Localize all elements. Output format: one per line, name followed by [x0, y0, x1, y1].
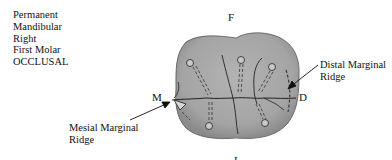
- distal-marginal-ridge-callout: Distal Marginal Ridge: [320, 59, 386, 83]
- cusp-distal: [269, 64, 276, 71]
- callout-text-line-2: Ridge: [320, 71, 386, 83]
- cusp-distofacial: [238, 57, 245, 64]
- callout-text-line-1: Mesial Marginal: [69, 122, 139, 134]
- label-distal: D: [299, 91, 307, 103]
- mesial-callout-line: [130, 104, 166, 120]
- mesial-marginal-ridge-callout: Mesial Marginal Ridge: [69, 122, 139, 146]
- tooth-crown: [176, 33, 299, 139]
- label-mesial: M: [152, 91, 162, 103]
- cusp-mesiolingual: [206, 123, 213, 130]
- label-lingual: L: [234, 154, 241, 160]
- callout-text-line-2: Ridge: [69, 134, 139, 146]
- callout-text-line-1: Distal Marginal: [320, 59, 386, 71]
- cusp-distolingual: [262, 120, 269, 127]
- cusp-mesiofacial: [187, 60, 194, 67]
- mesial-arrowhead: [162, 102, 170, 108]
- label-facial: F: [228, 11, 234, 23]
